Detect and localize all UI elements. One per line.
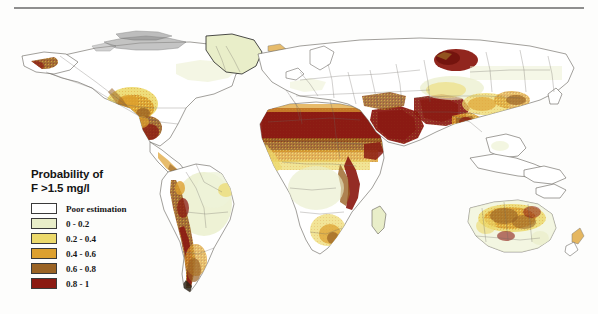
legend-entry: 0 - 0.2	[31, 216, 181, 231]
legend-entry: 0.4 - 0.6	[31, 246, 181, 261]
legend-entry: 0.6 - 0.8	[31, 261, 181, 276]
top-divider-rule	[14, 7, 584, 9]
legend-entry: Poor estimation	[31, 201, 181, 216]
legend-entry-label: 0 - 0.2	[66, 219, 89, 229]
legend-title-line1: Probability of	[31, 168, 181, 182]
legend-color-swatch	[31, 218, 57, 229]
legend-color-swatch	[31, 203, 57, 214]
legend-color-swatch	[31, 278, 57, 289]
legend-entry: 0.8 - 1	[31, 276, 181, 291]
map-legend: Probability of F >1.5 mg/l Poor estimati…	[31, 168, 181, 291]
legend-title-line2: F >1.5 mg/l	[31, 182, 181, 196]
legend-entry-label: 0.6 - 0.8	[66, 264, 96, 274]
legend-color-swatch	[31, 248, 57, 259]
legend-color-swatch	[31, 233, 57, 244]
legend-entry: 0.2 - 0.4	[31, 231, 181, 246]
figure-panel: Probability of F >1.5 mg/l Poor estimati…	[0, 0, 598, 314]
legend-entry-label: 0.2 - 0.4	[66, 234, 96, 244]
legend-entry-label: 0.4 - 0.6	[66, 249, 96, 259]
legend-entry-label: Poor estimation	[66, 204, 127, 214]
legend-entry-label: 0.8 - 1	[66, 279, 89, 289]
legend-color-swatch	[31, 263, 57, 274]
legend-entry-list: Poor estimation0 - 0.20.2 - 0.40.4 - 0.6…	[31, 201, 181, 291]
